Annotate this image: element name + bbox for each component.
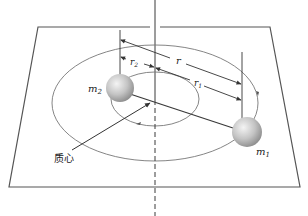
label-r2: r2 (130, 57, 138, 68)
label-m2: m2 (88, 83, 102, 96)
label-m1: m1 (256, 146, 270, 159)
connecting-rod (130, 94, 236, 129)
label-r: r (176, 55, 182, 66)
r-dimension-arrow (121, 40, 170, 58)
mass-m1-sphere (232, 117, 262, 147)
r2-dimension-arrow-b (144, 64, 154, 67)
mass-m2-sphere (106, 74, 134, 102)
label-r1: r1 (194, 78, 202, 89)
r1-dimension-arrow-b (204, 86, 241, 100)
r2-dimension-arrow (121, 57, 126, 59)
label-center-of-mass: 质心 (54, 153, 74, 164)
center-of-mass-arrow (72, 103, 150, 150)
r1-dimension-arrow (156, 68, 190, 80)
two-body-diagram: r r2 r1 m2 m1 质心 (0, 0, 308, 216)
